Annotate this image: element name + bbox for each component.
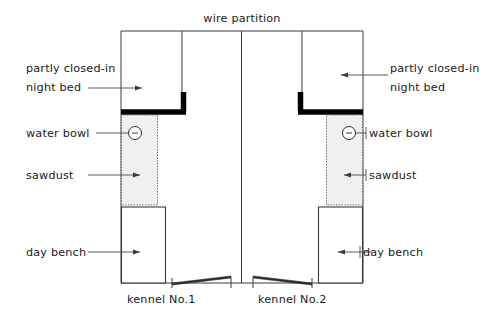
label-sawdust-right: sawdust — [369, 169, 417, 182]
label-night-bed-right-line1: partly closed-in — [390, 62, 480, 75]
label-day-bench-right: day bench — [363, 246, 423, 259]
arrowhead-night-bed-right — [341, 73, 348, 78]
label-sawdust-left: sawdust — [26, 169, 74, 182]
kennel-1-gate — [172, 276, 231, 285]
label-kennel-1: kennel No.1 — [127, 293, 196, 306]
kennel-plan-svg: wire partition — [0, 0, 485, 320]
label-kennel-2: kennel No.2 — [258, 293, 327, 306]
arrowhead-night-bed-left — [135, 86, 142, 91]
label-night-bed-left-line2: night bed — [26, 81, 81, 94]
kennel-2-group — [253, 31, 363, 288]
label-day-bench-left: day bench — [26, 246, 86, 259]
diagram-title: wire partition — [203, 12, 280, 25]
kennel-1-day-bench — [122, 207, 166, 283]
kennel-plan-diagram: wire partition — [0, 0, 485, 320]
label-water-bowl-right: water bowl — [369, 127, 433, 140]
label-night-bed-right-line2: night bed — [390, 81, 445, 94]
kennel-2-day-bench — [319, 207, 363, 283]
label-water-bowl-left: water bowl — [26, 127, 90, 140]
kennel-1-group — [121, 31, 231, 288]
label-night-bed-left-line1: partly closed-in — [26, 62, 116, 75]
kennel-2-gate — [253, 276, 312, 285]
